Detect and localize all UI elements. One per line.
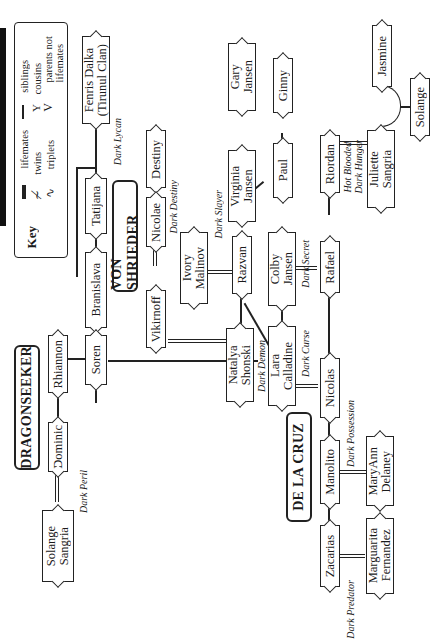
- person-lara-calladine: Lara Calladine: [268, 326, 296, 406]
- person-name: Solange: [414, 87, 427, 127]
- book-dark-predator: Dark Predator: [345, 580, 356, 639]
- person-razvan: Razvan: [232, 236, 252, 294]
- person-name: Juliette Sangria: [368, 150, 394, 188]
- line-sib-bracket: [76, 167, 78, 277]
- person-solange-sangria: Solange Sangria: [42, 510, 74, 582]
- clan-von-shrieder: VON SHRIEDER: [112, 180, 138, 292]
- person-name: Paul: [277, 159, 290, 181]
- book-hot-blooded-dark-hunger: Hot Blooded Dark Hunger: [342, 140, 364, 194]
- person-gary-jansen: Gary Jansen: [228, 43, 256, 111]
- key-cousins-label: cousins: [32, 63, 43, 95]
- person-name: Riordan: [324, 144, 337, 184]
- person-name: Fenris Dalka (Tirunul Clan): [83, 44, 109, 116]
- key-parents-label: parents not lifemates: [43, 36, 65, 82]
- person-name: Razvan: [236, 246, 249, 283]
- person-name: Ivory Malinov: [181, 247, 207, 289]
- person-nicolas: Nicolas: [320, 358, 340, 418]
- person-name: Soren: [90, 345, 103, 374]
- lifemate-lara-nicolas: [296, 384, 318, 388]
- book-dark-demon: Dark Demon: [256, 340, 267, 392]
- person-name: Natalya Shonski: [227, 345, 253, 385]
- person-name: Tatijana: [90, 186, 103, 226]
- book-dark-destiny: Dark Destiny: [168, 180, 179, 234]
- key-siblings-label: siblings: [19, 60, 30, 93]
- person-destiny: Destiny: [146, 130, 166, 188]
- line-tatijana-sib: [76, 167, 96, 169]
- person-name: Dominic: [52, 425, 65, 469]
- person-name: Nicolae: [150, 203, 163, 242]
- key-triplets-label: triplets: [45, 140, 56, 169]
- clan-label: DRAGONSEEKER: [19, 346, 35, 469]
- person-paul: Paul: [273, 143, 293, 198]
- clan-dragonseeker: DRAGONSEEKER: [14, 345, 40, 470]
- lifemate-manolito-maryann: [338, 470, 368, 474]
- person-nicolae: Nicolae: [146, 197, 166, 247]
- lifemates-symbol-icon: [22, 185, 26, 199]
- person-name: Destiny: [150, 140, 163, 179]
- person-jasmine: Jasmine: [372, 25, 392, 87]
- triplets-symbol-icon: ∿: [45, 188, 56, 198]
- person-name: Solange Sangria: [45, 526, 71, 566]
- key-lifemates-label: lifemates: [19, 130, 30, 168]
- person-name: Manolito: [324, 449, 337, 495]
- book-dark-curse: Dark Curse: [300, 330, 311, 377]
- book-dark-lycan: Dark Lycan: [112, 118, 123, 165]
- book-dark-peril: Dark Peril: [78, 470, 89, 513]
- person-ivory-malinov: Ivory Malinov: [180, 232, 208, 304]
- twins-symbol-icon: ≁: [32, 190, 43, 200]
- person-rafael: Rafael: [320, 241, 340, 293]
- key-twins-label: twins: [32, 152, 43, 175]
- person-tatijana: Tatijana: [85, 178, 107, 234]
- book-dark-secret: Dark Secret: [300, 240, 311, 288]
- clan-de-la-cruz: DE LA CRUZ: [286, 412, 312, 522]
- book-dark-possession: Dark Possession: [345, 400, 356, 467]
- person-vikirnoff: Vikirnoff: [146, 290, 166, 348]
- person-maryann-delaney: MaryAnn Delaney: [366, 436, 394, 506]
- person-name: Jasmine: [376, 36, 389, 76]
- person-marguarita-fernandez: Marguarita Fernandez: [366, 518, 394, 594]
- person-natalya-shonski: Natalya Shonski: [226, 328, 254, 402]
- clan-label: VON SHRIEDER: [109, 182, 141, 290]
- person-name: Virginia Jansen: [229, 166, 255, 207]
- parents-v-symbol-icon: V: [43, 103, 54, 112]
- person-colby-jansen: Colby Jansen: [268, 232, 296, 306]
- person-rhiannon: Rhiannon: [48, 335, 68, 393]
- siblings-symbol-icon: [22, 105, 24, 119]
- person-name: Ginny: [277, 70, 290, 101]
- person-name: Zacarias: [324, 535, 337, 577]
- person-dominic: Dominic: [48, 422, 68, 472]
- person-manolito: Manolito: [320, 440, 340, 504]
- key-title: Key: [26, 226, 37, 248]
- person-juliette-sangria: Juliette Sangria: [367, 130, 395, 208]
- person-fenris-dalka: Fenris Dalka (Tirunul Clan): [82, 36, 110, 124]
- person-branislava: Branislava: [85, 252, 107, 328]
- clan-label: DE LA CRUZ: [291, 423, 307, 511]
- key-edge-bar: [0, 28, 6, 226]
- person-name: Rhiannon: [52, 340, 65, 389]
- person-name: Colby Jansen: [269, 252, 295, 285]
- person-name: Rafael: [324, 251, 337, 284]
- person-name: Gary Jansen: [229, 60, 255, 93]
- person-soren: Soren: [85, 335, 107, 385]
- book-dark-slayer: Dark Slayer: [213, 190, 224, 239]
- person-name: Branislava: [90, 263, 103, 316]
- person-name: MaryAnn Delaney: [367, 447, 393, 496]
- person-name: Lara Calladine: [269, 342, 295, 390]
- person-name: Nicolas: [324, 369, 337, 407]
- person-riordan: Riordan: [320, 135, 340, 193]
- person-name: Marguarita Fernandez: [367, 528, 393, 583]
- person-zacarias: Zacarias: [320, 525, 340, 587]
- person-virginia-jansen: Virginia Jansen: [228, 150, 256, 222]
- person-name: Vikirnoff: [150, 296, 163, 342]
- person-ginny: Ginny: [273, 58, 293, 113]
- person-solange: Solange: [410, 78, 430, 136]
